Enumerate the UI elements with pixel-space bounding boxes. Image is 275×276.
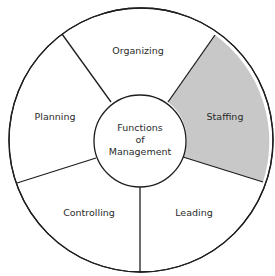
- center-label-line-1: Functions: [117, 122, 162, 133]
- center-label-line-2: of: [135, 134, 145, 145]
- divider-planning-organizing: [62, 34, 111, 102]
- divider-controlling-planning: [17, 158, 96, 183]
- segment-label-staffing: Staffing: [207, 111, 244, 122]
- segment-label-leading: Leading: [175, 207, 213, 218]
- segment-label-organizing: Organizing: [112, 45, 163, 56]
- segment-label-planning: Planning: [35, 111, 76, 122]
- center-label-line-3: Management: [109, 146, 172, 157]
- functions-of-management-wheel: Organizing Staffing Leading Controlling …: [0, 0, 275, 276]
- segment-label-controlling: Controlling: [63, 207, 115, 218]
- segment-staffing-fill: [168, 35, 269, 182]
